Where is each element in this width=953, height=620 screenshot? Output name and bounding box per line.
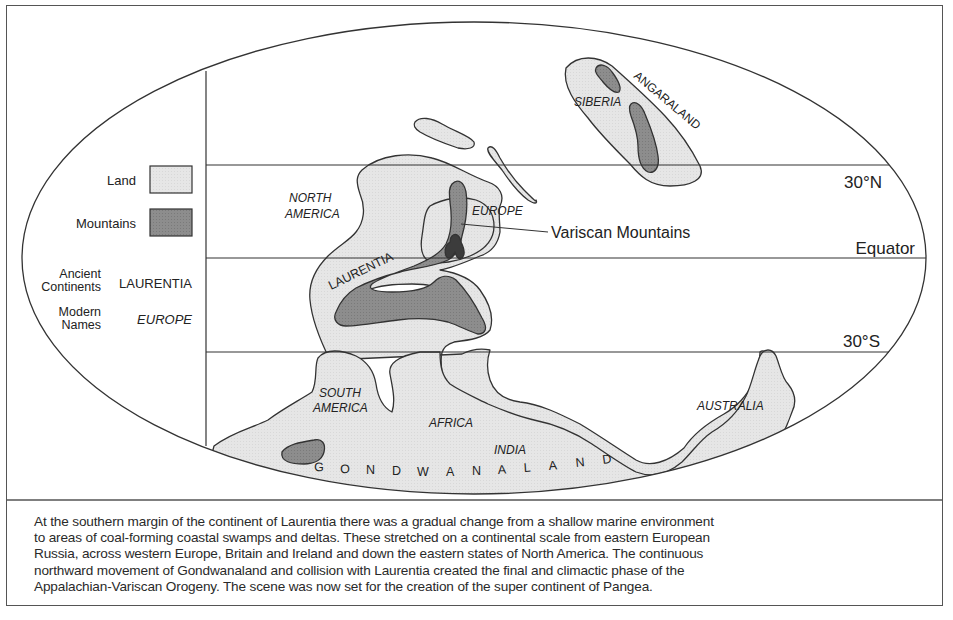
caption-line: At the southern margin of the continent … bbox=[34, 514, 914, 530]
svg-text:O: O bbox=[340, 462, 350, 476]
legend-ancient-example: LAURENTIA bbox=[119, 276, 192, 291]
label-india: INDIA bbox=[494, 443, 526, 457]
svg-text:A: A bbox=[446, 465, 455, 479]
landmass-gondwanaland bbox=[200, 350, 795, 500]
label-north-america-2: AMERICA bbox=[284, 207, 340, 221]
svg-text:D: D bbox=[601, 452, 612, 467]
label-europe: EUROPE bbox=[472, 204, 524, 218]
caption-line: to areas of coal-forming coastal swamps … bbox=[34, 530, 914, 546]
legend-modern-label-2: Names bbox=[61, 318, 101, 332]
legend-modern-label-1: Modern bbox=[59, 305, 101, 319]
svg-text:G: G bbox=[314, 460, 324, 474]
caption-line: Russia, across western Europe, Britain a… bbox=[34, 546, 914, 562]
label-30s: 30°S bbox=[843, 332, 880, 351]
label-30n: 30°N bbox=[844, 173, 882, 192]
svg-text:W: W bbox=[417, 465, 429, 479]
legend-ancient-label-2: Continents bbox=[41, 280, 101, 294]
svg-text:N: N bbox=[366, 463, 375, 477]
svg-text:L: L bbox=[523, 461, 531, 475]
label-south-america-1: SOUTH bbox=[319, 386, 361, 400]
landmass-island-north bbox=[414, 118, 474, 148]
label-north-america-1: NORTH bbox=[289, 191, 332, 205]
svg-text:N: N bbox=[575, 455, 585, 470]
legend-land-label: Land bbox=[107, 173, 136, 188]
label-equator: Equator bbox=[855, 239, 915, 258]
legend-ancient-label-1: Ancient bbox=[59, 267, 101, 281]
svg-text:A: A bbox=[497, 463, 507, 477]
caption-line: Appalachian-Variscan Orogeny. The scene … bbox=[34, 579, 914, 595]
label-south-america-2: AMERICA bbox=[312, 401, 368, 415]
svg-text:D: D bbox=[392, 464, 401, 478]
legend-modern-example: EUROPE bbox=[137, 312, 192, 327]
label-australia: AUSTRALIA bbox=[696, 399, 764, 413]
legend-land-swatch bbox=[150, 166, 192, 193]
figure-caption: At the southern margin of the continent … bbox=[34, 514, 914, 595]
caption-line: northward movement of Gondwanaland and c… bbox=[34, 563, 914, 579]
legend: Land Mountains Ancient Continents LAUREN… bbox=[41, 166, 192, 332]
legend-mountains-swatch bbox=[150, 209, 192, 236]
svg-text:N: N bbox=[472, 464, 481, 478]
label-variscan-mountains: Variscan Mountains bbox=[551, 224, 690, 241]
legend-mountains-label: Mountains bbox=[76, 216, 136, 231]
label-africa: AFRICA bbox=[428, 416, 473, 430]
label-siberia: SIBERIA bbox=[574, 95, 621, 109]
